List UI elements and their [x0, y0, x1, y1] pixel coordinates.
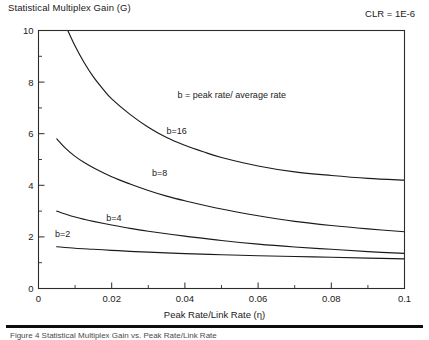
x-axis-label: Peak Rate/Link Rate (η): [0, 309, 429, 320]
y-tick-label: 2: [28, 231, 33, 242]
figure-caption: Figure 4 Statistical Multiplex Gain vs. …: [10, 331, 420, 340]
annotation-text: b = peak rate/ average rate: [178, 90, 286, 100]
x-tick-label: 0.02: [102, 293, 121, 304]
curve-b16: [68, 31, 405, 181]
axis-tick-labels-y: 0246810: [23, 25, 34, 294]
axis-tick-labels-x: 00.020.040.060.080.1: [36, 293, 411, 304]
x-tick-label: 0.08: [322, 293, 341, 304]
y-tick-label: 4: [28, 180, 33, 191]
y-tick-label: 0: [28, 283, 33, 294]
horizontal-divider: [6, 325, 423, 328]
y-tick-label: 10: [23, 25, 34, 36]
x-tick-label: 0: [36, 293, 41, 304]
chart-plot-area: 0246810 00.020.040.060.080.1 b=16b=8b=4b…: [0, 0, 429, 305]
curve-b2: [57, 247, 405, 259]
x-tick-label: 0.04: [176, 293, 195, 304]
curve-label-b2: b=2: [55, 229, 70, 239]
x-tick-label: 0.1: [398, 293, 411, 304]
curve-label-b16: b=16: [167, 126, 187, 136]
curve-label-b8: b=8: [152, 168, 167, 178]
curve-labels: b=16b=8b=4b=2: [55, 126, 187, 239]
chart-annotations: b = peak rate/ average rate: [178, 90, 286, 100]
y-tick-label: 6: [28, 128, 33, 139]
data-curves: [57, 31, 405, 259]
curve-label-b4: b=4: [106, 213, 121, 223]
y-tick-label: 8: [28, 77, 33, 88]
x-tick-label: 0.06: [249, 293, 268, 304]
